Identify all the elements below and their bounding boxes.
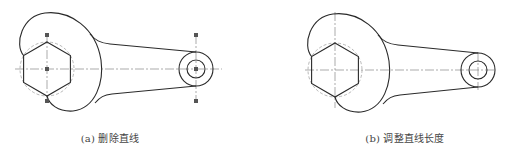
- wrench-head-outline[interactable]: [308, 14, 390, 112]
- grip-handle-icon[interactable]: [194, 99, 198, 103]
- grip-handle-icon[interactable]: [45, 67, 49, 71]
- figure-b-wrench-drawing: [305, 12, 495, 112]
- wrench-arm-lower-edge[interactable]: [383, 87, 478, 104]
- grip-handle-icon[interactable]: [45, 99, 49, 103]
- figure-a-caption: (a) 删除直线: [81, 130, 140, 145]
- wrench-arm-upper-edge[interactable]: [90, 34, 196, 52]
- wrench-head-outline[interactable]: [20, 13, 102, 111]
- wrench-drawings-canvas: [0, 0, 515, 150]
- figure-b-caption: (b) 调整直线长度: [365, 130, 444, 145]
- wrench-arm-upper-edge[interactable]: [378, 35, 478, 53]
- figure-a-wrench-drawing: [15, 13, 222, 111]
- grip-handle-icon[interactable]: [45, 33, 49, 37]
- selection-grips: [45, 33, 198, 103]
- grip-handle-icon[interactable]: [194, 33, 198, 37]
- grip-handle-icon[interactable]: [194, 67, 198, 71]
- wrench-arm-lower-edge[interactable]: [95, 86, 196, 103]
